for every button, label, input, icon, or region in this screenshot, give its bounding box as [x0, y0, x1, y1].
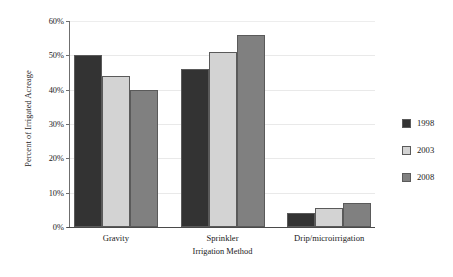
bar — [287, 213, 315, 227]
bar-group — [287, 21, 371, 227]
y-tick-label: 40% — [49, 85, 64, 94]
y-tick-label: 50% — [49, 51, 64, 60]
x-axis-line — [67, 227, 375, 228]
legend-swatch-icon — [402, 173, 411, 182]
bar — [130, 90, 158, 227]
legend-label: 2008 — [417, 172, 434, 182]
legend-swatch-icon — [402, 119, 411, 128]
y-tick-label: 30% — [49, 120, 64, 129]
plot-area: 0%10%20%30%40%50%60% GravitySprinklerDri… — [70, 21, 375, 227]
x-category-label: Sprinkler — [207, 233, 239, 243]
bar — [209, 52, 237, 227]
x-category-label: Gravity — [103, 233, 129, 243]
y-axis-title: Percent of Irrigated Acreage — [24, 39, 33, 199]
legend-label: 2003 — [417, 145, 434, 155]
y-axis-line — [69, 21, 70, 228]
bar — [181, 69, 209, 227]
legend-swatch-icon — [402, 146, 411, 155]
x-axis-title: Irrigation Method — [70, 247, 375, 256]
y-tick-label: 20% — [49, 154, 64, 163]
bar — [315, 208, 343, 227]
bar-group — [74, 21, 158, 227]
bar — [102, 76, 130, 227]
y-tick-label: 0% — [53, 223, 64, 232]
bar-chart: Percent of Irrigated Acreage 0%10%20%30%… — [0, 0, 453, 277]
bar — [237, 35, 265, 227]
bar-group — [181, 21, 265, 227]
y-tick-label: 60% — [49, 17, 64, 26]
y-tick-label: 10% — [49, 188, 64, 197]
bar — [74, 55, 102, 227]
bar — [343, 203, 371, 227]
x-category-label: Drip/microirrigation — [294, 233, 364, 243]
legend-label: 1998 — [417, 118, 434, 128]
